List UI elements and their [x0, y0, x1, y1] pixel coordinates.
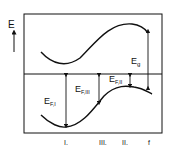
tick-f: f — [148, 139, 150, 146]
lower-band-curve — [41, 86, 152, 127]
tick-ii: II. — [122, 139, 128, 146]
tick-iii: III. — [99, 139, 107, 146]
tick-i: I. — [64, 139, 68, 146]
ef1-label: EF,I — [44, 96, 56, 107]
eg-label: Eg — [131, 56, 140, 67]
axis-label-e: E — [8, 19, 15, 30]
band-diagram: E Eg EF,I EF,III EF,II I. III. II. f — [0, 0, 172, 153]
ef3-label: EF,III — [75, 84, 90, 95]
ef2-label: EF,II — [109, 74, 123, 85]
